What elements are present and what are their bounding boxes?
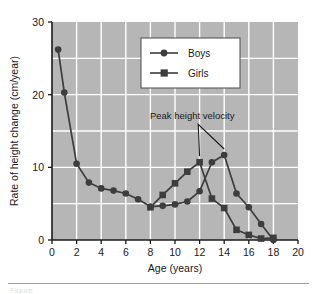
data-point-boys-12 — [196, 188, 203, 195]
y-tick-label-0: 0 — [38, 234, 44, 246]
x-tick-label-2: 2 — [74, 246, 80, 258]
data-point-boys-0.5 — [55, 46, 62, 53]
x-tick-label-0: 0 — [49, 246, 55, 258]
x-tick-label-18: 18 — [268, 246, 280, 258]
y-tick-label-30: 30 — [32, 16, 44, 28]
y-axis-tick-labels: 0102030 — [32, 16, 44, 246]
data-point-girls-14 — [221, 205, 228, 212]
data-point-boys-2 — [73, 160, 80, 167]
x-tick-label-12: 12 — [194, 246, 206, 258]
data-point-girls-17 — [258, 235, 265, 242]
data-point-boys-15 — [233, 190, 240, 197]
x-tick-label-8: 8 — [147, 246, 153, 258]
data-point-girls-12 — [196, 159, 203, 166]
data-point-boys-5 — [110, 187, 117, 194]
legend-label-boys: Boys — [188, 48, 210, 59]
y-tick-label-10: 10 — [32, 161, 44, 173]
data-point-boys-11 — [184, 198, 191, 205]
data-point-boys-9 — [159, 203, 166, 210]
legend-label-girls: Girls — [188, 68, 209, 79]
height-velocity-line-chart: 02468101214161820 0102030 Peak height ve… — [0, 0, 317, 294]
data-point-boys-10 — [172, 201, 179, 208]
data-point-boys-17 — [258, 221, 265, 228]
data-point-boys-7 — [135, 196, 142, 203]
data-point-girls-18 — [270, 235, 277, 242]
data-point-girls-11 — [184, 168, 191, 175]
data-point-girls-15 — [233, 227, 240, 234]
data-point-girls-13 — [209, 195, 216, 202]
caption-text: Figure — [10, 286, 309, 294]
x-axis-tick-labels: 02468101214161820 — [49, 246, 304, 258]
data-point-girls-9 — [159, 192, 166, 199]
data-point-boys-16 — [246, 204, 253, 211]
x-tick-label-6: 6 — [123, 246, 129, 258]
data-point-boys-1 — [61, 89, 68, 96]
y-tick-label-20: 20 — [32, 89, 44, 101]
legend-box — [141, 38, 240, 88]
peak-height-velocity-label: Peak height velocity — [150, 110, 235, 121]
data-point-boys-4 — [98, 185, 105, 192]
y-axis-title: Rate of height change (cm/year) — [8, 56, 20, 206]
data-point-boys-14 — [221, 152, 228, 159]
data-point-boys-3 — [86, 179, 93, 186]
figure-container: 02468101214161820 0102030 Peak height ve… — [0, 0, 317, 294]
data-point-girls-16 — [246, 232, 253, 239]
data-point-girls-8 — [147, 204, 154, 211]
x-tick-label-20: 20 — [292, 246, 304, 258]
legend-marker-square-icon — [161, 69, 168, 76]
x-tick-label-10: 10 — [169, 246, 181, 258]
data-point-boys-13 — [209, 159, 216, 166]
x-tick-label-14: 14 — [218, 246, 230, 258]
x-tick-label-4: 4 — [98, 246, 104, 258]
data-point-girls-10 — [172, 180, 179, 187]
data-point-boys-6 — [123, 190, 130, 197]
x-axis-title: Age (years) — [148, 262, 202, 274]
caption-divider — [8, 283, 309, 284]
chart-legend[interactable]: Boys Girls — [141, 38, 240, 88]
x-tick-label-16: 16 — [243, 246, 255, 258]
legend-marker-circle-icon — [161, 50, 168, 57]
